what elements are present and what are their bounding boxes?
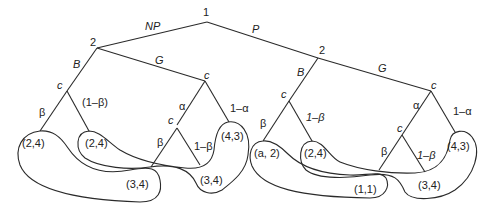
edge-p xyxy=(207,22,318,58)
right-player2-label: 2 xyxy=(319,44,325,56)
left-payoff-g-1mbeta: (3,4) xyxy=(200,174,223,186)
left-g-prob-alpha: α xyxy=(179,100,186,112)
right-payoff-b-beta: (a, 2) xyxy=(254,147,280,159)
right-payoff-g-1malpha: (4,3) xyxy=(447,140,470,152)
right-b-prob-beta: β xyxy=(260,117,266,129)
left-g-edge-1malpha xyxy=(205,81,229,122)
left-payoff-g-1malpha: (4,3) xyxy=(221,130,244,142)
left-b-prob-beta: β xyxy=(39,106,45,118)
right-inner-prob-1mbeta: 1–β xyxy=(417,149,436,161)
action-np-label: NP xyxy=(145,20,161,32)
left-edge-b xyxy=(67,48,97,91)
right-payoff-g-beta: (1,1) xyxy=(354,183,377,195)
right-b-prob-1mbeta: 1–β xyxy=(306,111,325,123)
left-b-chance-label: c xyxy=(57,79,63,91)
left-inner-edge-beta xyxy=(151,128,177,167)
right-g-chance-label: c xyxy=(431,79,437,91)
right-g-prob-1malpha: 1–α xyxy=(453,105,472,117)
right-g-edge-1malpha xyxy=(431,91,455,132)
left-inner-chance-label: c xyxy=(168,114,174,126)
right-inner-chance-label: c xyxy=(397,122,403,134)
right-g-edge-alpha xyxy=(402,91,431,135)
right-payoff-b-1mbeta: (2,4) xyxy=(304,147,327,159)
left-payoff-b-1mbeta: (2,4) xyxy=(85,137,108,149)
left-inner-prob-beta: β xyxy=(157,136,163,148)
left-payoff-b-beta: (2,4) xyxy=(22,137,45,149)
right-edge-g xyxy=(318,58,431,91)
root-label: 1 xyxy=(203,6,209,18)
left-g-chance-label: c xyxy=(204,69,210,81)
left-inner-prob-1mbeta: 1–β xyxy=(194,140,213,152)
left-payoff-g-beta: (3,4) xyxy=(126,178,149,190)
right-b-edge-beta xyxy=(263,101,289,141)
game-tree-diagram: 1 NP P 2 B G c β (1–β) c α 1–α c β 1–β (… xyxy=(0,0,488,214)
left-g-prob-1malpha: 1–α xyxy=(230,102,249,114)
right-inner-prob-beta: β xyxy=(381,145,387,157)
left-action-b-label: B xyxy=(73,58,80,70)
action-p-label: P xyxy=(252,23,260,35)
right-action-g-label: G xyxy=(378,62,387,74)
right-action-b-label: B xyxy=(297,66,304,78)
left-b-prob-1mbeta: (1–β) xyxy=(82,96,108,108)
right-edge-b xyxy=(289,58,318,101)
left-player2-label: 2 xyxy=(90,36,96,48)
right-b-chance-label: c xyxy=(281,88,287,100)
right-payoff-g-1mbeta: (3,4) xyxy=(418,179,441,191)
left-edge-g xyxy=(97,48,205,81)
right-g-prob-alpha: α xyxy=(413,99,420,111)
root-node: 1 xyxy=(203,6,209,18)
left-action-g-label: G xyxy=(155,54,164,66)
